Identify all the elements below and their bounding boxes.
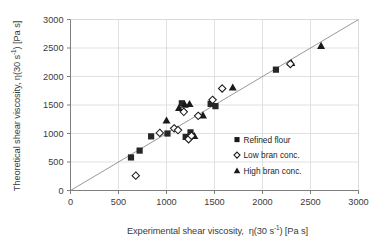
marker-triangle — [186, 100, 194, 107]
marker-square — [212, 103, 218, 109]
marker-triangle — [163, 116, 171, 123]
series-high-bran-conc — [163, 42, 326, 139]
marker-square — [137, 148, 143, 154]
scatter-chart: Theoretical shear viscosity, η(30 s-1) [… — [0, 0, 375, 246]
marker-square — [148, 133, 154, 139]
marker-triangle — [234, 167, 241, 173]
y-tick-label: 1000 — [43, 129, 63, 139]
marker-square — [128, 154, 134, 160]
legend-label: Refined flour — [244, 135, 291, 145]
series-low-bran-conc — [132, 60, 294, 179]
x-tick-label: 1500 — [204, 197, 224, 207]
legend-label: Low bran conc. — [244, 150, 300, 160]
marker-diamond — [234, 152, 240, 158]
marker-diamond — [218, 85, 225, 92]
marker-diamond — [132, 172, 139, 179]
y-tick-label: 0 — [58, 186, 63, 196]
x-tick-label: 0 — [68, 197, 73, 207]
x-tick-label: 500 — [111, 197, 126, 207]
y-tick-label: 2000 — [43, 72, 63, 82]
marker-square — [164, 130, 170, 136]
marker-square — [273, 67, 279, 73]
x-tick-label: 2500 — [300, 197, 320, 207]
y-tick-label: 3000 — [43, 15, 63, 25]
x-tick-label: 2000 — [252, 197, 272, 207]
y-tick-label: 500 — [48, 157, 63, 167]
x-tick-label: 3000 — [348, 197, 368, 207]
legend-label: High bran conc. — [244, 166, 302, 176]
y-tick-label: 1500 — [43, 100, 63, 110]
marker-square — [234, 137, 239, 142]
plot-svg: 0500100015002000250030000500100015002000… — [0, 0, 375, 246]
marker-triangle — [229, 83, 237, 90]
legend: Refined flourLow bran conc.High bran con… — [234, 135, 302, 176]
x-tick-label: 1000 — [156, 197, 176, 207]
y-tick-label: 2500 — [43, 43, 63, 53]
